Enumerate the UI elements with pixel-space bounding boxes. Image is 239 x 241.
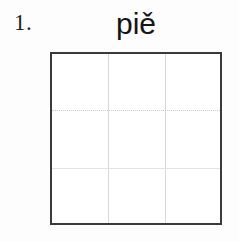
- grid-cell-layer: [52, 54, 220, 223]
- grid-cell[interactable]: [52, 110, 108, 166]
- grid-cell[interactable]: [108, 110, 164, 166]
- grid-cell[interactable]: [108, 167, 164, 223]
- grid-cell[interactable]: [164, 167, 220, 223]
- worksheet-item: 1. piě: [0, 0, 239, 241]
- grid-cell[interactable]: [52, 167, 108, 223]
- item-header: 1. piě: [0, 0, 239, 52]
- word-prompt-text: piě: [50, 5, 222, 43]
- grid-cell[interactable]: [164, 54, 220, 110]
- practice-grid: [50, 52, 222, 225]
- grid-cell[interactable]: [108, 54, 164, 110]
- item-number-label: 1.: [14, 11, 32, 34]
- grid-cell[interactable]: [164, 110, 220, 166]
- grid-cell[interactable]: [52, 54, 108, 110]
